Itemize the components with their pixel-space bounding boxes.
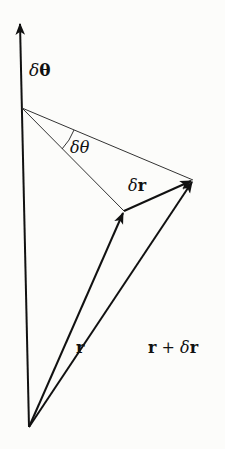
theta-bold-symbol: θ (39, 60, 50, 80)
thin-line-to-r-plus-dr-tip (22, 108, 193, 180)
delta-symbol: δ (180, 338, 190, 357)
vector-r (29, 213, 123, 427)
plus-sign: + (156, 338, 180, 357)
thin-line-to-r-tip (22, 108, 124, 211)
label-delta-r: δr (128, 178, 146, 194)
delta-symbol: δ (29, 60, 39, 80)
theta-italic-symbol: θ (80, 138, 90, 157)
label-angle-delta-theta: δθ (70, 140, 89, 156)
delta-symbol: δ (70, 138, 80, 157)
delta-symbol: δ (128, 176, 138, 195)
label-r: r (76, 340, 84, 356)
axis-vector-delta-theta (20, 24, 29, 427)
r-bold-symbol: r (138, 176, 146, 195)
diagram-canvas: δθ δθ δr r r + δr (0, 0, 225, 449)
label-r-plus-delta-r: r + δr (148, 340, 198, 356)
r-bold-symbol: r (190, 338, 198, 357)
r-bold-symbol: r (76, 338, 84, 357)
label-axis-delta-theta: δθ (29, 62, 51, 79)
vector-r-plus-delta-r (29, 182, 192, 427)
